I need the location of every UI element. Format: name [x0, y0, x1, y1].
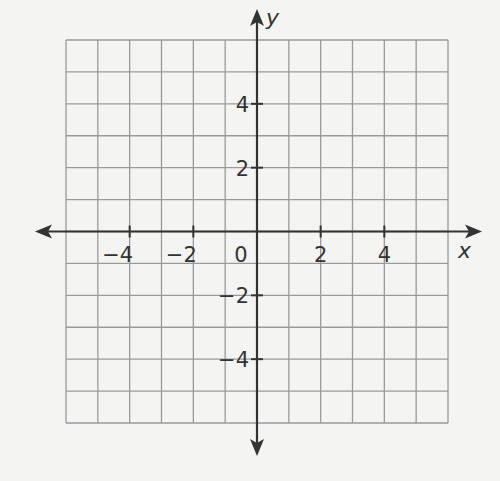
y-axis-label: y: [265, 5, 280, 30]
x-axis-label: x: [457, 238, 472, 263]
y-tick-label: 2: [236, 157, 249, 181]
coordinate-plane: −4−2024−4−224 x y: [0, 0, 500, 481]
x-tick-label: −4: [102, 243, 133, 267]
y-tick-label: −4: [218, 348, 249, 372]
x-tick-label: 2: [314, 243, 327, 267]
y-tick-label: 4: [236, 93, 249, 117]
axes: [35, 9, 482, 456]
x-tick-label: 4: [378, 243, 391, 267]
x-tick-label: 0: [234, 243, 247, 267]
y-tick-label: −2: [218, 284, 249, 308]
x-tick-label: −2: [166, 243, 197, 267]
